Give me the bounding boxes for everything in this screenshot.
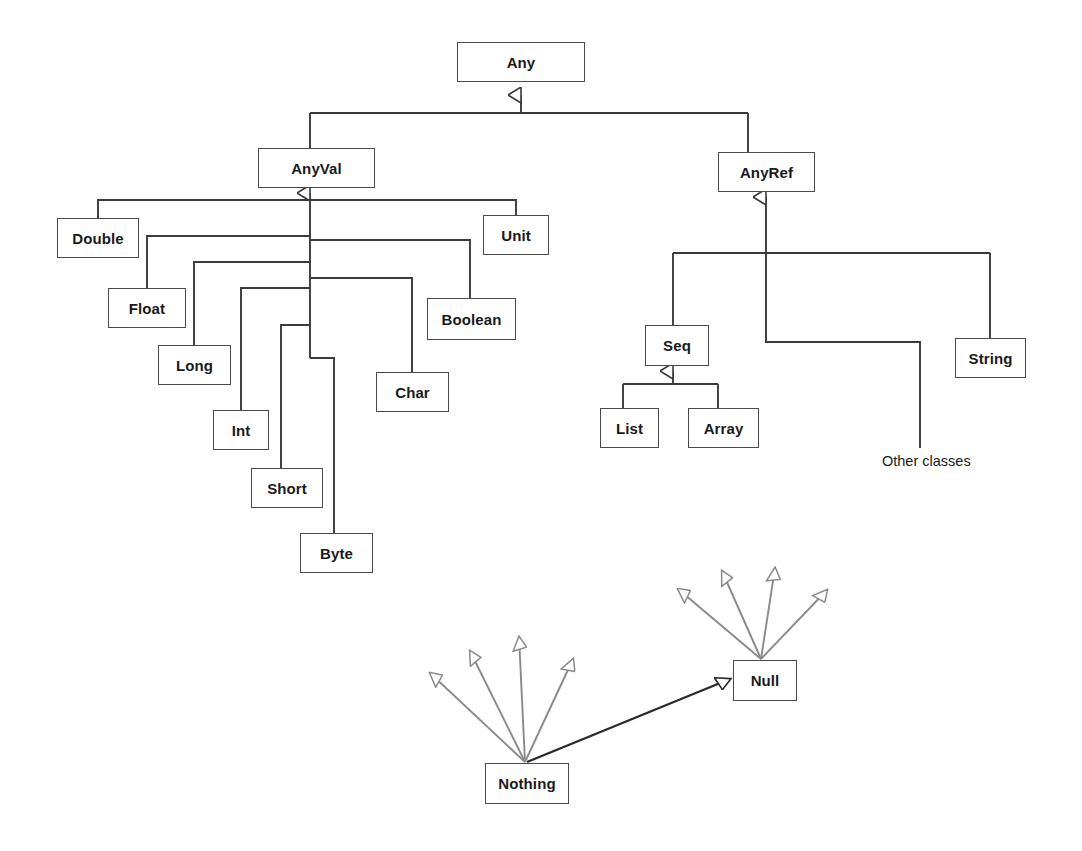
node-string[interactable]: String (955, 338, 1026, 378)
node-int[interactable]: Int (213, 410, 269, 450)
node-array-label: Array (704, 420, 744, 437)
node-boolean[interactable]: Boolean (427, 298, 516, 340)
node-any[interactable]: Any (457, 42, 585, 82)
node-short[interactable]: Short (251, 468, 323, 508)
node-anyval[interactable]: AnyVal (258, 148, 375, 188)
edge-unit-to-anyval (310, 200, 516, 215)
node-byte-label: Byte (320, 545, 353, 562)
node-anyref[interactable]: AnyRef (718, 152, 815, 192)
node-int-label: Int (232, 422, 251, 439)
type-hierarchy-diagram: Any AnyVal AnyRef Double Float Long Int … (0, 0, 1082, 851)
node-char[interactable]: Char (376, 372, 449, 412)
other-classes-label: Other classes (882, 453, 971, 469)
node-null-label: Null (751, 672, 780, 689)
node-any-label: Any (507, 54, 536, 71)
edge-float-to-anyval (147, 236, 310, 288)
edge-nothing-to-null (527, 679, 730, 762)
edge-double-to-anyval (98, 200, 310, 218)
node-char-label: Char (395, 384, 430, 401)
node-unit[interactable]: Unit (483, 215, 549, 255)
node-null[interactable]: Null (733, 660, 797, 701)
node-list-label: List (616, 420, 643, 437)
edge-layer (0, 0, 1082, 851)
node-long[interactable]: Long (158, 345, 231, 385)
node-string-label: String (969, 350, 1013, 367)
node-list[interactable]: List (600, 408, 659, 448)
edge-nothing-subtype-1 (430, 673, 525, 762)
edge-nothing-subtype-4 (525, 659, 573, 762)
edge-null-subtype-4 (761, 590, 827, 659)
node-short-label: Short (267, 480, 307, 497)
node-float-label: Float (129, 300, 165, 317)
edge-int-to-anyval (241, 288, 310, 410)
node-seq[interactable]: Seq (645, 325, 709, 366)
edge-char-to-anyval (310, 278, 412, 372)
edge-short-to-anyval (281, 325, 310, 468)
node-float[interactable]: Float (108, 288, 186, 328)
edge-nothing-subtype-2 (470, 651, 525, 762)
node-array[interactable]: Array (688, 408, 759, 448)
edge-group-nothing-fan (430, 637, 573, 762)
node-byte[interactable]: Byte (300, 533, 373, 573)
edge-null-subtype-2 (722, 571, 761, 659)
edge-null-subtype-3 (761, 568, 775, 659)
node-double-label: Double (72, 230, 123, 247)
edge-long-to-anyval (194, 262, 310, 345)
node-long-label: Long (176, 357, 213, 374)
node-boolean-label: Boolean (442, 311, 502, 328)
node-anyval-label: AnyVal (291, 160, 342, 177)
edge-group-null-fan (678, 568, 827, 659)
edge-null-subtype-1 (678, 589, 761, 659)
node-double[interactable]: Double (57, 218, 139, 258)
edge-otherclasses-to-anyref (766, 253, 920, 448)
edge-boolean-to-anyval (310, 240, 470, 298)
node-anyref-label: AnyRef (740, 164, 793, 181)
node-nothing[interactable]: Nothing (485, 763, 569, 804)
node-nothing-label: Nothing (498, 775, 555, 792)
node-unit-label: Unit (501, 227, 531, 244)
edge-nothing-subtype-3 (519, 637, 525, 762)
node-seq-label: Seq (663, 337, 691, 354)
